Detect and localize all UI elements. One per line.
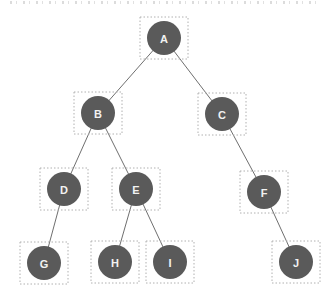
node-label-I: I bbox=[168, 257, 171, 269]
node-label-C: C bbox=[218, 109, 226, 121]
boxes-layer bbox=[20, 17, 320, 284]
edges-layer bbox=[44, 38, 296, 263]
node-label-E: E bbox=[132, 184, 139, 196]
node-label-J: J bbox=[293, 257, 299, 269]
tree-diagram: ABCDEFGHIJ bbox=[0, 0, 332, 290]
node-label-F: F bbox=[261, 187, 268, 199]
diagram-canvas: ABCDEFGHIJ bbox=[0, 0, 332, 290]
node-label-H: H bbox=[111, 257, 119, 269]
node-label-D: D bbox=[60, 184, 68, 196]
node-label-A: A bbox=[160, 33, 168, 45]
nodes-layer: ABCDEFGHIJ bbox=[27, 21, 313, 280]
node-label-G: G bbox=[40, 258, 49, 270]
node-label-B: B bbox=[94, 108, 102, 120]
tree-diagram-page: ABCDEFGHIJ bbox=[0, 0, 332, 290]
